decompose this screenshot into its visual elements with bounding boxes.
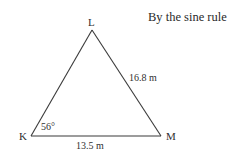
vertex-label-l: L: [88, 17, 95, 28]
angle-label-k: 56°: [41, 122, 55, 132]
vertex-label-m: M: [166, 131, 176, 142]
vertex-label-k: K: [19, 131, 27, 142]
heading-text: By the sine rule: [148, 11, 227, 24]
side-label-km: 13.5 m: [76, 141, 104, 151]
side-lm: [92, 30, 161, 136]
side-label-lm: 16.8 m: [129, 73, 157, 83]
